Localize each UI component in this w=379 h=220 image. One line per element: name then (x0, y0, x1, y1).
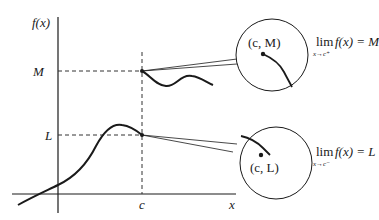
curve-right-piece (142, 71, 213, 86)
lower-magnified-point (259, 153, 263, 157)
lower-magnifier-beam-bottom (142, 135, 233, 152)
x-axis-label: x (228, 197, 235, 212)
upper-magnified-point (261, 52, 265, 56)
limit-diagram: (c, M) (c, L) f(x) x c M L lim x→c⁺ f(x)… (0, 0, 379, 220)
axes (12, 17, 236, 213)
lower-magnifier: (c, L) (142, 127, 312, 199)
y-axis-label: f(x) (32, 15, 50, 30)
y-tick-m: M (32, 64, 45, 79)
y-tick-l: L (44, 128, 52, 143)
guide-lines (58, 52, 142, 194)
right-limit-subscript: x→c⁺ (312, 50, 330, 58)
right-limit-expression: lim x→c⁺ f(x) = M (312, 34, 379, 58)
left-limit-expr: f(x) = L (335, 144, 376, 159)
right-limit-lim: lim (316, 34, 333, 49)
upper-point-label: (c, M) (248, 35, 281, 50)
left-limit-lim: lim (316, 144, 333, 159)
upper-magnifier: (c, M) (142, 19, 308, 91)
lower-magnifier-beam-top (142, 135, 237, 144)
upper-magnifier-circle (236, 19, 308, 91)
right-limit-expr: f(x) = M (335, 34, 379, 49)
curve-left-piece (18, 125, 142, 205)
left-limit-subscript: x→c⁻ (312, 160, 330, 168)
x-tick-c: c (139, 197, 145, 212)
left-limit-expression: lim x→c⁻ f(x) = L (312, 144, 376, 168)
lower-point-label: (c, L) (250, 160, 279, 175)
